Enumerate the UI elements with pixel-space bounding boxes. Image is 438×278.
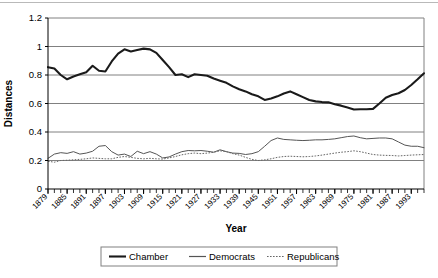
y-tick-label: 0.2 [29,155,42,166]
y-tick-label: 0.8 [29,69,42,80]
x-tick-label: 1879 [30,192,49,211]
x-tick-label: 1933 [203,192,222,211]
x-tick-label: 1981 [355,192,374,211]
grid-lines [48,18,424,189]
legend-label-democrats: Democrats [209,251,255,262]
y-axis-ticks: 00.20.40.60.811.2 [29,12,48,194]
x-tick-label: 1915 [145,192,164,211]
legend-label-republicans: Republicans [287,251,340,262]
x-tick-label: 1903 [107,192,126,211]
legend-label-chamber: Chamber [129,251,168,262]
x-tick-label: 1963 [298,192,317,211]
x-tick-label: 1897 [88,192,107,211]
chart-canvas: 00.20.40.60.811.2 1879188518911897190319… [0,0,438,278]
y-tick-label: 1 [37,41,42,52]
x-tick-label: 1969 [317,192,336,211]
x-tick-label: 1987 [375,192,394,211]
x-tick-label: 1993 [394,192,413,211]
x-tick-label: 1891 [69,192,88,211]
series-line-chamber [48,49,424,110]
x-tick-label: 1939 [222,192,241,211]
x-axis-title: Year [225,223,246,234]
x-tick-label: 1975 [336,192,355,211]
data-series [48,49,424,163]
line-chart: 00.20.40.60.811.2 1879188518911897190319… [0,0,438,278]
y-tick-label: 1.2 [29,12,42,23]
x-tick-label: 1909 [126,192,145,211]
x-tick-label: 1927 [183,192,202,211]
y-tick-label: 0.6 [29,98,42,109]
x-tick-label: 1921 [164,192,183,211]
x-axis-ticks: 1879188518911897190319091915192119271933… [30,189,424,211]
x-tick-label: 1885 [50,192,69,211]
x-tick-label: 1957 [279,192,298,211]
y-tick-label: 0.4 [29,126,42,137]
x-tick-label: 1951 [260,192,279,211]
chart-legend: ChamberDemocratsRepublicans [101,247,340,266]
x-tick-label: 1945 [241,192,260,211]
y-axis-title: Distances [3,79,14,127]
series-line-democrats [48,136,424,158]
